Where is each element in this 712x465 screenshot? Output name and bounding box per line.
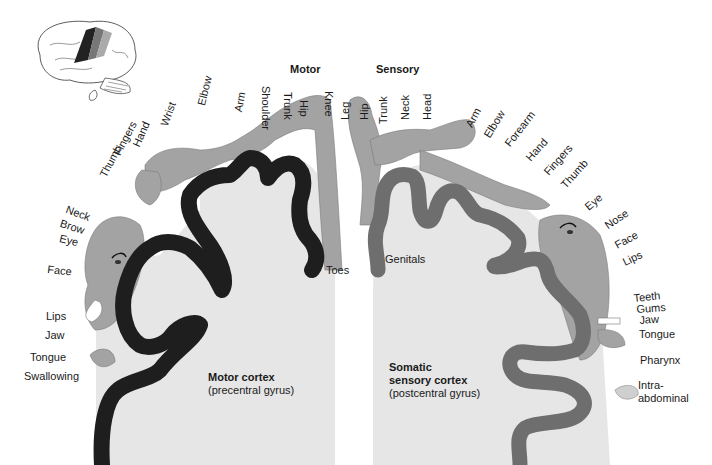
brain-thumbnail-icon bbox=[38, 21, 136, 100]
sensory-label-leg: Leg bbox=[340, 102, 351, 120]
sensory-label-pharynx: Pharynx bbox=[640, 355, 680, 366]
motor-header: Motor bbox=[290, 64, 321, 75]
motor-label-shoulder: Shoulder bbox=[260, 86, 271, 130]
motor-label-jaw: Jaw bbox=[45, 330, 65, 341]
sensory-label-neck: Neck bbox=[400, 95, 411, 120]
sensory-label-genitals: Genitals bbox=[385, 254, 425, 265]
sensory-label-jaw: Jaw bbox=[639, 314, 659, 326]
sensory-cortex-subtitle: (postcentral gyrus) bbox=[389, 388, 480, 399]
homunculus-diagram bbox=[0, 0, 712, 465]
motor-label-hip: Hip bbox=[298, 100, 309, 117]
sensory-cortex-title-line2: sensory cortex bbox=[389, 375, 467, 386]
sensory-label-intra: Intra- bbox=[638, 380, 664, 391]
motor-cortex-subtitle: (precentral gyrus) bbox=[208, 385, 294, 396]
motor-label-tongue: Tongue bbox=[30, 352, 66, 363]
sensory-label-hip: Hip bbox=[359, 103, 370, 120]
sensory-label-abdominal: abdominal bbox=[638, 393, 689, 404]
motor-label-knee: Knee bbox=[323, 91, 334, 117]
motor-label-lips: Lips bbox=[46, 311, 66, 322]
sensory-label-trunk: Trunk bbox=[378, 96, 389, 124]
motor-label-trunk: Trunk bbox=[282, 92, 293, 120]
motor-label-swallowing: Swallowing bbox=[24, 371, 79, 382]
sensory-label-tongue: Tongue bbox=[639, 329, 675, 340]
sensory-label-head: Head bbox=[422, 94, 433, 120]
motor-label-toes: Toes bbox=[326, 265, 349, 276]
sensory-header: Sensory bbox=[376, 64, 419, 75]
sensory-cortex-title-line1: Somatic bbox=[389, 362, 432, 373]
motor-cortex-title: Motor cortex bbox=[208, 372, 275, 383]
